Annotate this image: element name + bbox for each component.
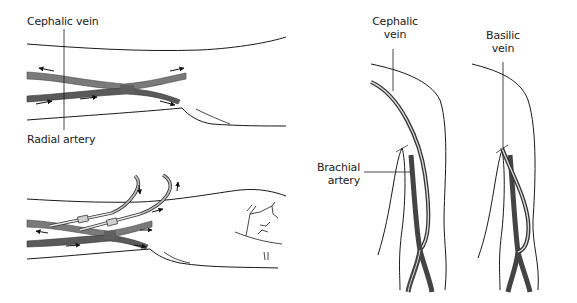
label-line-1: Cephalic [370,15,420,28]
radial-artery [27,235,148,249]
arm-outline-outer [472,64,538,290]
panel-elbow-basilic [472,62,538,292]
label-radial-artery: Radial artery [27,133,95,146]
label-line-1: Brachial [308,161,360,174]
arm-outline-inner [378,148,402,255]
label-line-2: artery [308,174,360,187]
label-brachial-artery: Brachial artery [308,161,360,187]
arm-outline-bottom [27,249,278,268]
needle-hub-arterial [77,215,88,223]
label-line-2: vein [480,42,526,55]
tubing-venous [140,175,170,214]
label-line-2: vein [370,28,420,41]
hand-sketch [235,202,282,260]
panel-wrist-fistula [27,29,286,130]
arm-outline-bottom [27,108,286,126]
arm-outline-top [27,189,286,202]
label-basilic-vein: Basilic vein [480,29,526,55]
anastomosis [104,231,116,239]
label-cephalic-vein-wrist: Cephalic vein [27,15,99,28]
arm-outline-top [27,37,286,51]
anastomosis [120,85,134,94]
label-cephalic-vein-elbow: Cephalic vein [370,15,420,41]
needle-hub-venous [106,218,117,226]
arm-outline-inner [478,150,502,258]
arm-outline-outer [371,64,446,290]
cephalic-vein [27,72,186,90]
panel-wrist-fistula-cannulated [27,175,286,268]
panel-elbow-cephalic [364,49,446,292]
label-line-1: Basilic [480,29,526,42]
